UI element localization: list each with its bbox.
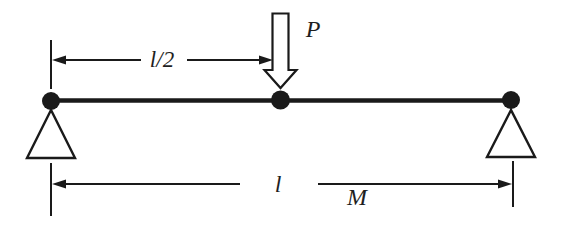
half-span-right-arrowhead-icon [259, 56, 273, 65]
span-left-arrowhead-icon [52, 180, 66, 189]
beam-load-diagram: P l/2 l M [0, 0, 563, 230]
half-span-left-arrowhead-icon [52, 56, 66, 65]
half-span-label: l/2 [150, 47, 174, 72]
mass-label: M [346, 184, 369, 210]
right-pin-support-icon [487, 110, 535, 157]
right-node-circle-icon [502, 91, 520, 109]
left-pin-support-icon [27, 110, 75, 158]
load-down-arrow-icon [265, 14, 297, 89]
span-label: l [275, 171, 282, 197]
diagram-svg: P l/2 l M [0, 0, 563, 230]
load-label: P [305, 16, 321, 42]
span-right-arrowhead-icon [498, 180, 512, 189]
midspan-node-circle-icon [271, 91, 290, 110]
left-node-circle-icon [42, 92, 60, 110]
